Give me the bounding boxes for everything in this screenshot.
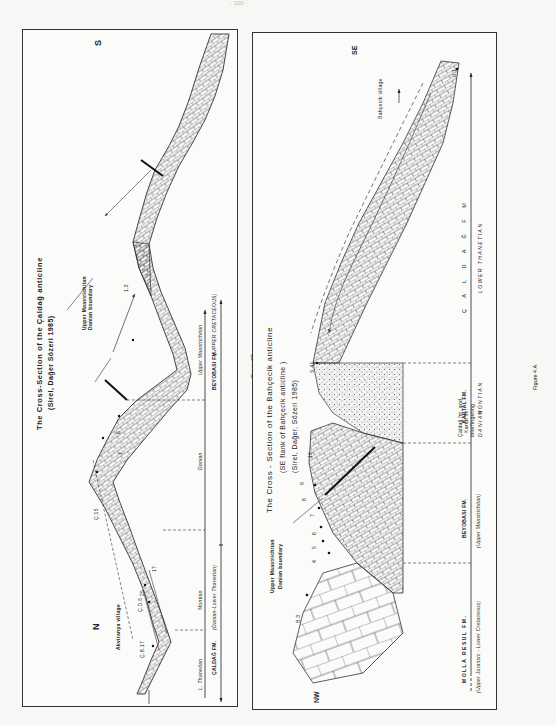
sample-4: 4	[311, 560, 317, 563]
sample-1-3: 1.3	[123, 284, 129, 292]
stage-l-thanetian: L. Thanetian	[197, 659, 203, 690]
figure-4a-title: The Cross - Section of the Bahçecik anti…	[265, 327, 274, 513]
unit-lower-thanetian: LOWER THANETIAN	[477, 222, 483, 293]
sample-1: 1	[117, 452, 123, 455]
formation-beyobasi: BEYOBASI FM	[211, 352, 217, 390]
unit-beyobasi-age: (Upper Maastrichtian)	[475, 494, 481, 548]
sample-17: 17	[151, 566, 157, 572]
sample-cd5: Ç.D.5	[137, 598, 143, 612]
direction-s: S	[93, 40, 103, 46]
figure-4a-frame: The Cross - Section of the Bahçecik anti…	[252, 32, 497, 710]
direction-nw: NW	[313, 691, 320, 703]
sample-6: 6	[311, 532, 317, 535]
direction-se: SE	[351, 46, 358, 55]
boundary-label-4a-1: Upper Maastrichtian	[269, 539, 275, 593]
sample-5: 5	[311, 546, 317, 549]
stage-upper-maastrichtian: Upper Maastrichtian	[197, 325, 203, 375]
unit-molla-resul: MOLLA RESUL FM.	[461, 615, 467, 683]
unit-kartal: KARTAL FM.	[461, 390, 467, 423]
boundary-label-2: Danian boundary	[87, 285, 93, 330]
sample-c15: Ç.15	[93, 508, 99, 520]
sample-b3: B.3	[295, 615, 301, 623]
unit-beyobasi: BEYOBASI FM.	[461, 498, 467, 538]
cross-section-bahcecik-drawing	[253, 33, 496, 709]
formation-beyobasi-age: (UPPER CRETACEOUS)	[211, 293, 217, 355]
direction-n: N	[91, 624, 101, 631]
stage-danian: Danian	[197, 452, 203, 470]
boundary-label-4a-2: Danian boundary	[277, 544, 283, 589]
page-header-mark: - 100 -	[230, 0, 247, 6]
sample-s1: S.1	[451, 69, 457, 77]
sample-s41: S.41	[309, 362, 315, 374]
unit-caldag: Ç A L D A Ğ F M	[461, 198, 467, 313]
sample-9: 9	[299, 482, 305, 485]
sample-7: 7	[309, 514, 315, 517]
unit-montian: MONTIAN	[477, 381, 483, 415]
figure-3b-subtitle: (Sirel, Dağer Sözeri 1985)	[47, 316, 54, 410]
sample-10: 10	[307, 452, 313, 458]
formation-caldag-age: (Danian-Lower Thanetian)	[211, 565, 217, 630]
formation-caldag: ÇALDAĞ FM.	[211, 641, 217, 675]
unit-interfinger-line3: interfingering	[469, 404, 475, 437]
stage-montian: Montian	[197, 590, 203, 610]
sample-cb17: Ç.B.17	[139, 641, 145, 658]
sample-25: 25	[139, 590, 145, 596]
village-label: Akviranya village	[115, 604, 121, 650]
figure-3b-frame: The Cross-Section of the Çaldağ anticlin…	[22, 29, 238, 707]
sample-8: 8	[301, 498, 307, 501]
figure-4a-subtitle-1: (SE flank of Bahçecik anticline )	[279, 361, 286, 473]
village-label-bahcecik: Bahçecik village	[377, 78, 383, 119]
figure-4a-subtitle-2: (Sirel, Dağer, Sözeri 1985)	[291, 380, 298, 473]
unit-molla-resul-age: (Upper Jurassic - Lower Cretaceous)	[475, 601, 481, 693]
sample-8: 8	[115, 431, 121, 434]
figure-4a-caption: Figure 4 A	[532, 365, 538, 390]
figure-3b-title: The Cross-Section of the Çaldağ anticlin…	[35, 257, 44, 430]
cross-section-caldag-drawing	[23, 30, 237, 706]
